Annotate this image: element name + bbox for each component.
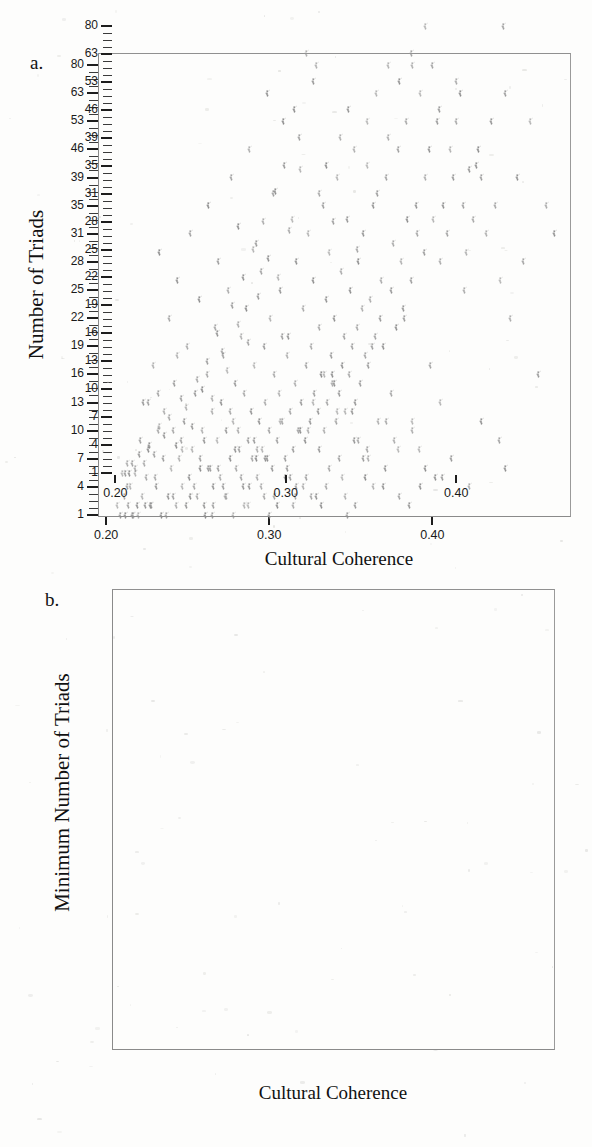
panel-b: b. Minimum Number of Triads Cultural Coh… (0, 575, 592, 1147)
y-tick-minor (103, 340, 112, 341)
y-tick-minor (103, 256, 112, 257)
scan-speck (251, 282, 253, 284)
scan-speck (489, 154, 494, 156)
y-tick-major (101, 137, 112, 139)
scan-speck (267, 1011, 272, 1014)
x-tick-major (455, 475, 457, 483)
y-tick-major (87, 289, 98, 291)
scan-speck (484, 862, 488, 865)
scan-speck (230, 197, 234, 199)
x-tick-label: 0.30 (264, 486, 308, 500)
scan-speck (135, 913, 139, 916)
scan-speck (98, 216, 100, 218)
scan-speck (127, 381, 128, 383)
scan-speck (143, 548, 147, 550)
y-tick-label: 46 (66, 102, 98, 116)
panel-a-x-axis-title: Cultural Coherence (234, 548, 444, 570)
scan-speck (585, 849, 588, 852)
scan-speck (207, 78, 212, 80)
scan-speck (368, 343, 373, 345)
y-tick-major (87, 64, 98, 66)
y-tick-major (101, 165, 112, 167)
y-tick-minor (103, 89, 112, 90)
y-tick-major (87, 373, 98, 375)
y-tick-minor (89, 339, 98, 340)
scan-speck (449, 350, 450, 351)
y-tick-major (101, 416, 112, 418)
y-tick-minor (89, 452, 98, 453)
scan-speck (205, 108, 209, 110)
y-tick-minor (89, 72, 98, 73)
scan-speck (458, 700, 463, 701)
y-tick-minor (103, 47, 112, 48)
scan-speck (51, 572, 55, 574)
scan-speck (141, 862, 145, 865)
y-tick-major (101, 25, 112, 27)
y-tick-minor (103, 173, 112, 174)
figure-container: a. Number of Triads Cultural Coherence 1… (0, 0, 592, 1147)
scan-speck (57, 1131, 62, 1133)
scan-speck (29, 782, 31, 783)
y-tick-minor (89, 501, 98, 502)
scan-speck (455, 567, 456, 569)
y-tick-major (101, 249, 112, 251)
y-tick-major (101, 193, 112, 195)
y-tick-label: 35 (52, 198, 84, 212)
scan-speck (404, 911, 406, 912)
scan-speck (278, 70, 280, 72)
y-tick-minor (103, 40, 112, 41)
scan-speck (234, 915, 237, 918)
scan-speck (185, 447, 189, 449)
scan-speck (244, 503, 248, 505)
scan-speck (332, 111, 337, 113)
y-tick-minor (103, 270, 112, 271)
x-tick-label: 0.20 (93, 486, 137, 500)
y-tick-label: 16 (66, 325, 98, 339)
scan-speck (391, 822, 393, 823)
y-tick-minor (89, 480, 98, 481)
scan-speck (189, 537, 193, 540)
y-tick-label: 13 (66, 353, 98, 367)
scan-speck (278, 902, 280, 904)
y-tick-minor (103, 291, 112, 292)
y-tick-minor (103, 159, 112, 160)
y-tick-label: 10 (52, 423, 84, 437)
scan-speck (224, 1008, 228, 1011)
scan-speck (524, 1082, 526, 1084)
y-tick-label: 4 (66, 437, 98, 451)
y-tick-label: 22 (66, 269, 98, 283)
x-tick-major (268, 517, 270, 525)
y-tick-label: 13 (52, 395, 84, 409)
y-tick-minor (103, 180, 112, 181)
y-tick-minor (103, 431, 112, 432)
y-tick-minor (103, 263, 112, 264)
y-tick-minor (103, 208, 112, 209)
scan-speck (302, 102, 305, 104)
y-tick-minor (103, 298, 112, 299)
scan-speck (530, 872, 532, 873)
y-tick-label: 16 (52, 366, 84, 380)
y-tick-major (101, 221, 112, 223)
scan-speck (37, 1118, 42, 1120)
panel-b-y-axis-title: Minimum Number of Triads (50, 653, 75, 933)
scan-speck (151, 700, 155, 702)
y-tick-label: 19 (52, 338, 84, 352)
y-tick-label: 63 (66, 46, 98, 60)
y-tick-minor (103, 452, 112, 453)
scan-speck (424, 821, 426, 823)
scan-speck (353, 190, 356, 193)
y-tick-major (101, 81, 112, 83)
y-tick-major (101, 53, 112, 55)
x-tick-label: 0.20 (84, 528, 128, 542)
y-tick-minor (103, 131, 112, 132)
scan-speck (489, 482, 493, 483)
y-tick-minor (103, 438, 112, 439)
scan-speck (449, 994, 450, 996)
scan-speck (185, 403, 187, 405)
scan-speck (468, 250, 472, 252)
y-tick-minor (103, 187, 112, 188)
y-tick-major (87, 261, 98, 263)
y-tick-minor (103, 459, 112, 460)
y-tick-minor (103, 229, 112, 230)
y-tick-minor (103, 243, 112, 244)
